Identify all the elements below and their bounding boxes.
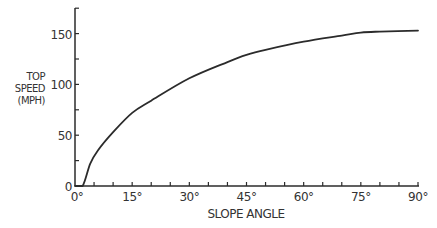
y-axis-label-line: SPEED (15, 83, 46, 94)
y-tick-label: 50 (58, 129, 72, 143)
y-tick-label: 150 (51, 28, 72, 42)
y-axis-label: TOPSPEED(MPH) (15, 71, 46, 106)
x-axis-label: SLOPE ANGLE (207, 207, 284, 221)
x-tick-label: 45° (237, 190, 257, 204)
top-speed-curve (75, 31, 418, 186)
line-chart: 050100150 0°15°30°45°60°75°90° TOPSPEED(… (0, 0, 437, 228)
x-tick-label: 30° (179, 190, 199, 204)
y-axis-label-line: TOP (25, 71, 45, 82)
y-tick-label: 100 (51, 78, 72, 92)
x-tick-label: 90° (408, 190, 428, 204)
y-axis-label-line: (MPH) (18, 95, 46, 106)
axes (75, 8, 419, 186)
x-tick-label: 60° (294, 190, 314, 204)
x-tick-label: 75° (351, 190, 371, 204)
x-tick-label: 15° (122, 190, 142, 204)
x-tick-label: 0° (71, 190, 84, 204)
